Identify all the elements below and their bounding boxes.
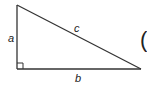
side-b-label: b (75, 72, 81, 84)
side-c-hypotenuse-line (17, 5, 141, 69)
side-a-label: a (8, 32, 14, 44)
side-c-label: c (74, 22, 80, 34)
triangle-shape (17, 5, 141, 69)
right-angle-marker (17, 63, 23, 69)
partial-parenthesis-glyph: ( (140, 27, 147, 52)
right-triangle-diagram: a c b ( (0, 0, 147, 86)
